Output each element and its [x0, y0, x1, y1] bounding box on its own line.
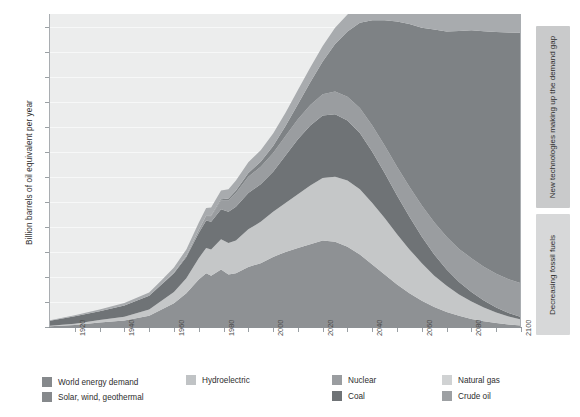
y-tick-mark: [45, 277, 49, 278]
legend-item[interactable]: Solar, wind, geothermal: [42, 392, 144, 402]
y-tick-mark: [45, 77, 49, 78]
x-tick-mark: [521, 328, 522, 332]
legend-item[interactable]: World energy demand: [42, 377, 138, 387]
x-tick-mark: [471, 328, 472, 332]
legend-swatch: [442, 375, 452, 385]
x-tick-mark: [199, 328, 200, 332]
legend-label: Solar, wind, geothermal: [58, 393, 144, 402]
annotation-decreasing-fossil-fuels: Decreasing fossil fuels: [536, 214, 570, 335]
x-tick-mark: [298, 328, 299, 332]
x-tick-label: 1980: [227, 320, 236, 336]
y-tick-mark: [45, 327, 49, 328]
legend-label: Hydroelectric: [202, 376, 250, 385]
x-axis-line: [49, 327, 522, 328]
legend-swatch: [332, 375, 342, 385]
x-tick-label: 2100: [524, 320, 533, 336]
legend-item[interactable]: Natural gas: [442, 375, 500, 385]
chart-legend: World energy demandHydroelectricNuclearN…: [0, 372, 580, 417]
y-tick-mark: [45, 177, 49, 178]
legend-item[interactable]: Coal: [332, 391, 365, 401]
x-tick-mark: [323, 328, 324, 332]
stacked-area-series: [50, 14, 521, 327]
plot-right-border: [520, 14, 521, 328]
x-tick-mark: [248, 328, 249, 332]
legend-item[interactable]: Nuclear: [332, 375, 376, 385]
y-tick-mark: [45, 227, 49, 228]
x-tick-mark: [149, 328, 150, 332]
annotation-decreasing-fossil-fuels-text: Decreasing fossil fuels: [548, 234, 558, 314]
legend-label: Nuclear: [348, 376, 376, 385]
x-tick-mark: [124, 328, 125, 332]
y-tick-mark: [45, 302, 49, 303]
legend-label: World energy demand: [58, 378, 138, 387]
x-tick-mark: [75, 328, 76, 332]
x-tick-mark: [496, 328, 497, 332]
x-tick-mark: [174, 328, 175, 332]
legend-label: Natural gas: [458, 376, 500, 385]
y-tick-mark: [45, 202, 49, 203]
legend-item[interactable]: Crude oil: [442, 391, 491, 401]
x-tick-mark: [422, 328, 423, 332]
legend-swatch: [186, 375, 196, 385]
y-tick-mark: [45, 127, 49, 128]
y-axis-title: Billion barrels of oil equivalent per ye…: [25, 48, 34, 298]
x-tick-label: 2020: [326, 320, 335, 336]
legend-item[interactable]: Hydroelectric: [186, 375, 250, 385]
y-tick-mark: [45, 52, 49, 53]
y-tick-mark: [45, 152, 49, 153]
legend-swatch: [442, 391, 452, 401]
legend-label: Coal: [348, 392, 365, 401]
x-tick-mark: [100, 328, 101, 332]
x-tick-mark: [273, 328, 274, 332]
y-axis-line: [49, 14, 50, 328]
x-tick-label: 2000: [276, 320, 285, 336]
x-tick-mark: [224, 328, 225, 332]
x-tick-label: 2060: [425, 320, 434, 336]
y-tick-mark: [45, 102, 49, 103]
x-tick-mark: [447, 328, 448, 332]
legend-swatch: [42, 377, 52, 387]
plot-area: [50, 14, 521, 327]
x-tick-label: 2080: [474, 320, 483, 336]
x-tick-label: 1960: [177, 320, 186, 336]
legend-swatch: [332, 391, 342, 401]
x-tick-mark: [347, 328, 348, 332]
x-tick-mark: [372, 328, 373, 332]
y-tick-mark: [45, 252, 49, 253]
annotation-new-technologies: New technologies making up the demand ga…: [536, 26, 570, 208]
chart-figure: Billion barrels of oil equivalent per ye…: [0, 0, 580, 417]
x-tick-mark: [397, 328, 398, 332]
x-tick-label: 2040: [375, 320, 384, 336]
legend-label: Crude oil: [458, 392, 491, 401]
legend-swatch: [42, 392, 52, 402]
annotation-new-technologies-text: New technologies making up the demand ga…: [548, 36, 558, 198]
x-tick-label: 1940: [127, 320, 136, 336]
x-tick-label: 1920: [78, 320, 87, 336]
y-tick-mark: [45, 27, 49, 28]
